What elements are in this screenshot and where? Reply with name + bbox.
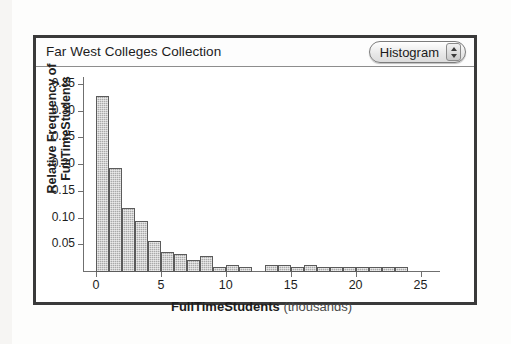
x-axis-tick-label: 25 <box>414 278 428 292</box>
x-axis-tick-label: 5 <box>157 278 164 292</box>
stepper-control[interactable] <box>446 43 461 61</box>
x-axis-tick-label: 0 <box>92 278 99 292</box>
page-edge <box>0 0 12 344</box>
y-axis-line <box>83 77 84 272</box>
histogram-bar <box>395 267 408 272</box>
application-window: Far West Colleges Collection Histogram R… <box>33 35 477 305</box>
histogram-bar <box>200 256 213 272</box>
y-axis-tick: 0.30 <box>78 111 83 112</box>
histogram-bar <box>96 96 109 272</box>
histogram-bar <box>213 267 226 272</box>
histogram-bar <box>109 168 122 272</box>
y-axis-tick: 0.35 <box>78 84 83 85</box>
histogram-plot: Relative Frequency of FullTimeStudents 0… <box>36 67 474 302</box>
view-type-dropdown[interactable]: Histogram <box>369 41 466 63</box>
x-axis-tick: 0 <box>96 272 97 277</box>
histogram-bar <box>330 267 343 272</box>
y-axis-tick: 0.15 <box>78 191 83 192</box>
y-axis-tick-label: 0.05 <box>52 236 75 250</box>
histogram-bar <box>226 265 239 272</box>
plot-axes-area: 0.050.100.150.200.250.300.35 0510152025 <box>83 77 440 272</box>
x-axis-title-units: (thousands) <box>283 299 352 314</box>
x-axis-tick-label: 10 <box>219 278 233 292</box>
histogram-bar <box>187 260 200 272</box>
histogram-bar <box>278 265 291 272</box>
document-page: Far West Colleges Collection Histogram R… <box>0 0 511 344</box>
histogram-bar <box>356 267 369 272</box>
histogram-bar <box>161 252 174 272</box>
y-axis-tick-label: 0.35 <box>52 76 75 90</box>
triangle-up-icon[interactable] <box>451 47 457 51</box>
x-axis-title-variable: FullTimeStudents <box>171 299 280 314</box>
histogram-bar <box>382 267 395 272</box>
y-axis-tick: 0.05 <box>78 244 83 245</box>
histogram-bar <box>239 267 252 272</box>
y-axis-tick: 0.25 <box>78 137 83 138</box>
histogram-bar <box>369 267 382 272</box>
x-axis-tick: 25 <box>421 272 422 277</box>
triangle-down-icon[interactable] <box>451 54 457 58</box>
window-title-bar: Far West Colleges Collection Histogram <box>36 38 474 67</box>
y-axis-tick-label: 0.10 <box>52 210 75 224</box>
x-axis-tick-label: 20 <box>349 278 363 292</box>
x-axis-tick: 15 <box>291 272 292 277</box>
x-axis-tick: 20 <box>356 272 357 277</box>
y-axis-tick-label: 0.25 <box>52 129 75 143</box>
y-axis-tick-label: 0.20 <box>52 156 75 170</box>
x-axis-tick-label: 15 <box>284 278 298 292</box>
x-axis-tick: 5 <box>161 272 162 277</box>
histogram-bar <box>291 267 304 272</box>
x-axis-tick: 10 <box>226 272 227 277</box>
y-axis-tick-label: 0.30 <box>52 103 75 117</box>
histogram-bar <box>148 241 161 272</box>
histogram-bar <box>122 208 135 272</box>
y-axis-tick: 0.10 <box>78 218 83 219</box>
histogram-bar <box>135 221 148 272</box>
histogram-bar <box>174 254 187 272</box>
histogram-bar <box>304 265 317 272</box>
view-type-dropdown-label: Histogram <box>380 45 446 60</box>
histogram-bar <box>343 267 356 272</box>
x-axis-title: FullTimeStudents (thousands) <box>83 299 440 314</box>
histogram-bar <box>317 267 330 272</box>
y-axis-tick-label: 0.15 <box>52 183 75 197</box>
histogram-bar <box>265 265 278 272</box>
y-axis-tick: 0.20 <box>78 164 83 165</box>
